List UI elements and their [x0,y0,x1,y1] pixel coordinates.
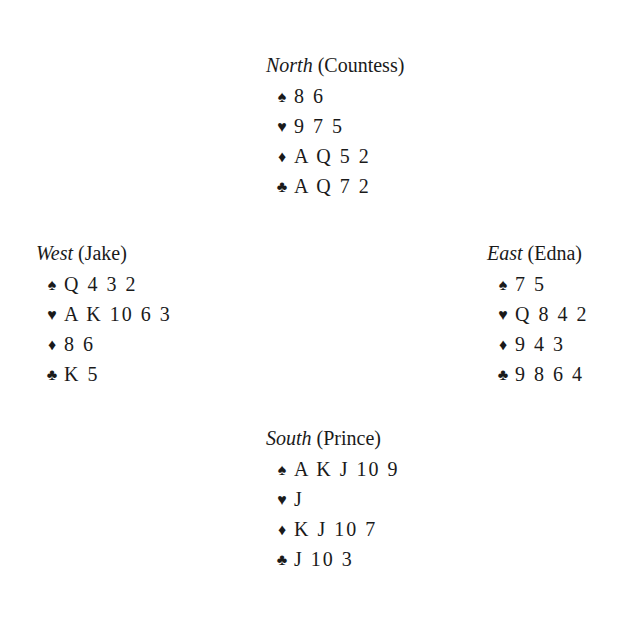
cards: Q 4 3 2 [64,273,137,295]
suit-row-hearts: ♥9 7 5 [266,111,404,141]
diamond-icon: ♦ [274,142,290,172]
cards: 7 5 [515,273,546,295]
diamond-icon: ♦ [44,330,60,360]
cards: 8 6 [64,333,95,355]
hand-west: West (Jake) ♠Q 4 3 2 ♥A K 10 6 3 ♦8 6 ♣K… [36,238,172,389]
heart-icon: ♥ [274,485,290,515]
cards: K 5 [64,363,99,385]
suit-row-hearts: ♥J [266,484,400,514]
diamond-icon: ♦ [495,330,511,360]
club-icon: ♣ [44,360,60,390]
heart-icon: ♥ [274,112,290,142]
spade-icon: ♠ [274,455,290,485]
cards: 9 8 6 4 [515,363,584,385]
cards: A K 10 6 3 [64,303,172,325]
player-name: (Edna) [528,242,582,264]
player-name: (Countess) [318,54,405,76]
club-icon: ♣ [274,172,290,202]
hand-south: South (Prince) ♠A K J 10 9 ♥J ♦K J 10 7 … [266,423,400,574]
hand-title: East (Edna) [487,238,588,268]
heart-icon: ♥ [495,300,511,330]
hand-title: North (Countess) [266,50,404,80]
cards: 9 4 3 [515,333,565,355]
suit-row-diamonds: ♦9 4 3 [487,329,588,359]
suit-row-spades: ♠A K J 10 9 [266,454,400,484]
spade-icon: ♠ [44,270,60,300]
suit-row-clubs: ♣K 5 [36,359,172,389]
player-name: (Prince) [317,427,381,449]
player-name: (Jake) [78,242,127,264]
suit-row-hearts: ♥A K 10 6 3 [36,299,172,329]
club-icon: ♣ [274,545,290,575]
cards: J 10 3 [294,548,354,570]
suit-row-diamonds: ♦K J 10 7 [266,514,400,544]
heart-icon: ♥ [44,300,60,330]
suit-row-spades: ♠7 5 [487,269,588,299]
direction-label: West [36,242,73,264]
cards: 8 6 [294,85,325,107]
suit-row-clubs: ♣A Q 7 2 [266,171,404,201]
diamond-icon: ♦ [274,515,290,545]
direction-label: North [266,54,313,76]
cards: K J 10 7 [294,518,377,540]
suit-row-spades: ♠8 6 [266,81,404,111]
cards: A Q 5 2 [294,145,371,167]
direction-label: South [266,427,312,449]
spade-icon: ♠ [495,270,511,300]
hand-east: East (Edna) ♠7 5 ♥Q 8 4 2 ♦9 4 3 ♣9 8 6 … [487,238,588,389]
club-icon: ♣ [495,360,511,390]
suit-row-hearts: ♥Q 8 4 2 [487,299,588,329]
suit-row-spades: ♠Q 4 3 2 [36,269,172,299]
cards: J [294,488,304,510]
hand-title: South (Prince) [266,423,400,453]
spade-icon: ♠ [274,82,290,112]
suit-row-clubs: ♣J 10 3 [266,544,400,574]
hand-north: North (Countess) ♠8 6 ♥9 7 5 ♦A Q 5 2 ♣A… [266,50,404,201]
cards: Q 8 4 2 [515,303,588,325]
cards: 9 7 5 [294,115,344,137]
cards: A Q 7 2 [294,175,371,197]
suit-row-diamonds: ♦A Q 5 2 [266,141,404,171]
cards: A K J 10 9 [294,458,400,480]
suit-row-clubs: ♣9 8 6 4 [487,359,588,389]
direction-label: East [487,242,523,264]
hand-title: West (Jake) [36,238,172,268]
suit-row-diamonds: ♦8 6 [36,329,172,359]
